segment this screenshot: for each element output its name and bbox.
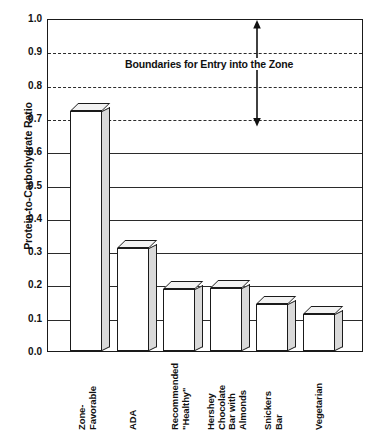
x-tick-label-line: Chocolate: [216, 385, 227, 430]
bar: [256, 304, 288, 351]
bar-front-face: [303, 314, 335, 351]
bar-side-face: [102, 107, 110, 351]
bar-front-face: [256, 304, 288, 351]
bar-side-face: [242, 284, 250, 351]
bar-side-face: [335, 310, 343, 351]
x-tick-label-line: Bar with: [227, 385, 238, 430]
y-tick-label: 0.5: [14, 181, 42, 191]
bar: [117, 248, 149, 351]
bar-front-face: [210, 288, 242, 351]
x-tick-label-line: "Healthy": [180, 363, 191, 430]
x-tick-label: Zone-Favorable: [77, 386, 98, 430]
plot-area: Boundaries for Entry into the Zone: [47, 19, 363, 352]
y-tick-label: 0.2: [14, 280, 42, 290]
bar-front-face: [163, 289, 195, 351]
y-tick-label: 1.0: [14, 14, 42, 24]
x-tick-label-line: Bar: [273, 391, 284, 430]
x-tick-label-line: Favorable: [87, 386, 98, 430]
x-tick-label: SnickersBar: [263, 391, 284, 430]
x-tick-label: Recommended"Healthy": [170, 363, 191, 430]
y-tick-label: 0.9: [14, 47, 42, 57]
grid-line-dashed: [48, 53, 362, 54]
bar-side-face: [195, 286, 203, 351]
y-tick-label: 0.6: [14, 147, 42, 157]
bar-front-face: [70, 111, 102, 351]
y-tick-label: 0.3: [14, 247, 42, 257]
x-axis-category-labels: Zone-FavorableADARecommended"Healthy"Her…: [0, 356, 376, 436]
y-tick-label: 0.7: [14, 114, 42, 124]
x-tick-label-line: Hershey: [206, 385, 217, 430]
x-tick-label-line: Snickers: [263, 391, 274, 430]
bar: [70, 111, 102, 351]
bar: [163, 289, 195, 351]
x-tick-label-line: ADA: [128, 410, 139, 430]
y-tick-label: 0.1: [14, 314, 42, 324]
bar-side-face: [288, 300, 296, 351]
x-tick-label: Vegetarian: [314, 383, 325, 430]
x-tick-label: HersheyChocolateBar withAlmonds: [206, 385, 248, 430]
zone-boundaries-annotation: Boundaries for Entry into the Zone: [123, 58, 295, 70]
grid-line-dashed: [48, 87, 362, 88]
bar: [210, 288, 242, 351]
boundary-double-arrow-icon: [249, 20, 265, 127]
x-tick-label-line: Zone-: [77, 386, 88, 430]
bar-front-face: [117, 248, 149, 351]
x-tick-label: ADA: [128, 410, 139, 430]
y-tick-label: 0.8: [14, 81, 42, 91]
x-tick-label-line: Recommended: [170, 363, 181, 430]
y-tick-label: 0.4: [14, 214, 42, 224]
x-tick-label-line: Almonds: [237, 385, 248, 430]
x-tick-label-line: Vegetarian: [314, 383, 325, 430]
bar-side-face: [149, 244, 157, 351]
bar: [303, 314, 335, 351]
protein-carbohydrate-ratio-chart: Protein-to-Carbohydrate Ratio 1.00.90.80…: [0, 0, 376, 436]
